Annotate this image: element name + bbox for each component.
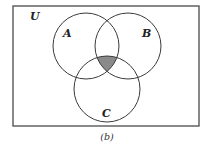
venn-diagram: U A B C (b)	[0, 0, 212, 144]
set-b-circle	[95, 13, 161, 79]
universe-label: U	[30, 10, 41, 23]
set-a-circle	[53, 13, 119, 79]
set-b-label: B	[141, 27, 151, 40]
set-a-label: A	[62, 27, 72, 40]
set-c-label: C	[102, 107, 111, 120]
figure-caption: (b)	[100, 131, 114, 142]
